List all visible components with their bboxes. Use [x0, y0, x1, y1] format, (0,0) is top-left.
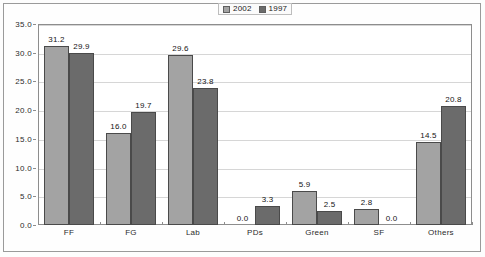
x-tick-mark — [162, 222, 163, 225]
bar — [44, 46, 69, 225]
bar — [193, 88, 218, 225]
bar — [131, 112, 156, 225]
x-tick-label: FF — [64, 228, 74, 237]
y-tick-mark — [33, 139, 36, 140]
x-tick-label: PDs — [247, 228, 263, 237]
bar-value-label: 2.5 — [324, 200, 336, 209]
y-tick-label: 25.0 — [15, 77, 32, 86]
bar-value-label: 0.0 — [386, 214, 398, 223]
bar — [317, 211, 342, 225]
x-tick-mark — [224, 222, 225, 225]
legend-item: 1997 — [259, 5, 288, 13]
bar-value-label: 31.2 — [48, 35, 64, 44]
bar-value-label: 14.5 — [420, 131, 436, 140]
bar-value-label: 16.0 — [110, 122, 126, 131]
bar-value-label: 20.8 — [445, 95, 461, 104]
y-tick-label: 20.0 — [15, 106, 32, 115]
bar — [255, 206, 280, 225]
bar-value-label: 19.7 — [135, 101, 151, 110]
x-tick-label: Green — [305, 228, 329, 237]
bar-value-label: 2.8 — [361, 198, 373, 207]
x-tick-mark — [410, 222, 411, 225]
x-tick-mark — [348, 222, 349, 225]
x-tick-label: SF — [374, 228, 385, 237]
bar — [416, 142, 441, 225]
bar — [106, 133, 131, 225]
bar — [354, 209, 379, 225]
bars-layer: 31.229.916.019.729.623.80.03.35.92.52.80… — [38, 24, 472, 225]
bar-value-label: 23.8 — [197, 77, 213, 86]
bar-value-label: 0.0 — [237, 214, 249, 223]
legend-label: 2002 — [233, 5, 252, 13]
bar — [292, 191, 317, 225]
x-tick-mark — [286, 222, 287, 225]
y-tick-mark — [33, 53, 36, 54]
chart-screenshot: 20021997 0.05.010.015.020.025.030.035.0 … — [0, 0, 485, 257]
y-axis: 0.05.010.015.020.025.030.035.0 — [0, 24, 36, 225]
y-tick-mark — [33, 81, 36, 82]
bar-value-label: 3.3 — [262, 195, 274, 204]
y-tick-mark — [33, 225, 36, 226]
y-tick-mark — [33, 196, 36, 197]
chart-legend: 20021997 — [218, 3, 292, 15]
x-tick-label: FG — [125, 228, 137, 237]
y-tick-mark — [33, 168, 36, 169]
y-tick-label: 15.0 — [15, 134, 32, 143]
x-tick-label: Others — [428, 228, 454, 237]
y-tick-mark — [33, 110, 36, 111]
x-tick-mark — [100, 222, 101, 225]
bar — [69, 53, 94, 225]
y-tick-label: 10.0 — [15, 163, 32, 172]
x-axis: FFFGLabPDsGreenSFOthers — [38, 228, 472, 244]
legend-swatch-icon — [223, 6, 230, 13]
bar-value-label: 29.9 — [73, 42, 89, 51]
y-tick-label: 5.0 — [20, 192, 32, 201]
y-tick-label: 0.0 — [20, 221, 32, 230]
legend-item: 2002 — [223, 5, 252, 13]
bar-value-label: 29.6 — [172, 44, 188, 53]
x-tick-label: Lab — [186, 228, 200, 237]
legend-swatch-icon — [259, 6, 266, 13]
bar — [441, 106, 466, 225]
y-tick-label: 30.0 — [15, 48, 32, 57]
y-tick-mark — [33, 24, 36, 25]
y-tick-label: 35.0 — [15, 20, 32, 29]
legend-label: 1997 — [269, 5, 288, 13]
bar — [168, 55, 193, 225]
bar-value-label: 5.9 — [299, 180, 311, 189]
x-tick-mark — [472, 222, 473, 225]
